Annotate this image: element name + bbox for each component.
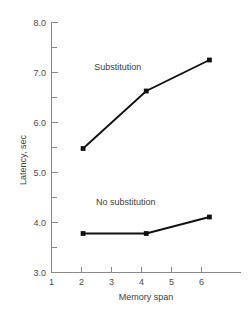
- data-point: [81, 146, 86, 151]
- y-tick-label-5: 5.0: [33, 168, 46, 178]
- x-axis-ticks: [52, 267, 202, 273]
- y-axis-minor-ticks: [52, 48, 57, 248]
- series-substitution-line: [83, 60, 209, 149]
- data-point: [81, 231, 86, 236]
- y-tick-label-7: 7.0: [33, 68, 46, 78]
- x-axis-title: Memory span: [119, 292, 174, 302]
- x-tick-label-3: 3: [109, 277, 114, 287]
- series-no-substitution-line: [83, 217, 209, 234]
- series-label-substitution: Substitution: [94, 62, 141, 72]
- x-tick-label-5: 5: [169, 277, 174, 287]
- x-tick-label-1: 1: [49, 277, 54, 287]
- y-tick-label-3: 3.0: [33, 268, 46, 278]
- y-tick-label-8: 8.0: [33, 18, 46, 28]
- chart-plot-area: 8.0 7.0 6.0 5.0 4.0 3.0 1 2 3 4 5 6 Memo…: [0, 0, 252, 311]
- x-tick-label-6: 6: [199, 277, 204, 287]
- data-point: [207, 58, 212, 63]
- latency-memory-span-chart: 8.0 7.0 6.0 5.0 4.0 3.0 1 2 3 4 5 6 Memo…: [0, 0, 252, 311]
- x-tick-label-4: 4: [139, 277, 144, 287]
- x-tick-label-2: 2: [79, 277, 84, 287]
- y-tick-label-4: 4.0: [33, 218, 46, 228]
- y-tick-label-6: 6.0: [33, 118, 46, 128]
- data-point: [144, 89, 149, 94]
- y-axis-title: Latency, sec: [18, 135, 28, 185]
- data-point: [207, 215, 212, 220]
- series-label-no-substitution: No substitution: [96, 197, 156, 207]
- data-point: [144, 231, 149, 236]
- series-no-substitution: [81, 215, 212, 236]
